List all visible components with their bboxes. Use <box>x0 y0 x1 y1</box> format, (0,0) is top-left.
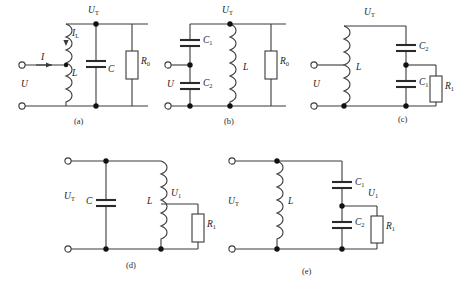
circuit-e-svg <box>222 148 402 288</box>
current-arrow-il <box>63 40 68 46</box>
terminal-c-top <box>311 62 317 68</box>
label-b-u: U <box>167 80 174 90</box>
terminal-b-top <box>165 62 171 68</box>
node-e-bottom <box>274 246 279 251</box>
label-b-ut: UT <box>222 6 233 16</box>
label-c-l: L <box>356 63 361 73</box>
node-e-mid <box>339 203 344 208</box>
node-d-top <box>103 158 108 163</box>
label-d-r1: R1 <box>207 220 216 230</box>
resistor-b-r0 <box>265 51 277 79</box>
resistor-d-r1 <box>192 214 204 242</box>
circuit-c-svg <box>306 6 461 130</box>
circuit-a-svg <box>8 6 158 130</box>
resistor-c-r1 <box>430 76 442 102</box>
label-d-c: C <box>86 197 92 207</box>
node-b-mid <box>187 62 192 67</box>
circuit-c: UT L C2 C1 R1 U (c) <box>306 6 461 130</box>
caption-e: (e) <box>302 266 311 276</box>
label-b-c2: C2 <box>203 79 213 89</box>
inductor-c <box>344 26 350 106</box>
caption-b: (b) <box>224 116 234 126</box>
inductor-d <box>161 161 167 249</box>
node-b-bottom <box>227 103 232 108</box>
label-e-r1: R1 <box>386 222 395 232</box>
node-a-top <box>93 21 98 26</box>
label-a-i: I <box>41 53 44 63</box>
terminal-d-top <box>65 158 71 164</box>
label-c-r1: R1 <box>445 82 454 92</box>
circuit-b: UT C1 C2 L R0 U (b) <box>158 6 308 130</box>
circuit-e: UT L C1 C2 U1 R1 (e) <box>222 148 402 288</box>
label-e-c2: C2 <box>355 218 365 228</box>
label-c-u: U <box>313 80 320 90</box>
label-a-r0: R0 <box>141 57 150 67</box>
circuit-a: UT I IL L C R0 U (a) <box>8 6 158 130</box>
current-arrow-i <box>46 62 52 67</box>
label-c-c2: C2 <box>419 42 429 52</box>
label-e-c1: C1 <box>355 178 365 188</box>
label-d-ut: UT <box>64 192 75 202</box>
terminal-b-bottom <box>165 103 171 109</box>
node-e-top <box>274 158 279 163</box>
circuit-figure: UT I IL L C R0 U (a) <box>0 0 466 296</box>
node-b-bottom-left <box>187 103 192 108</box>
circuit-b-svg <box>158 6 308 130</box>
terminal-e-bottom <box>229 246 235 252</box>
label-e-l: L <box>288 197 293 207</box>
resistor-e-r1 <box>371 216 383 243</box>
node-a-bottom <box>93 103 98 108</box>
label-c-c1: C1 <box>419 78 429 88</box>
terminal-a-top <box>19 62 25 68</box>
node-c-mid <box>403 62 408 67</box>
resistor-a-r0 <box>126 51 138 79</box>
label-d-u1: U1 <box>171 189 181 199</box>
node-c-bottom-left <box>341 103 346 108</box>
node-d-bottom-right <box>158 246 163 251</box>
label-a-ut: UT <box>88 6 99 16</box>
label-a-u: U <box>21 80 28 90</box>
label-b-l: L <box>243 63 248 73</box>
node-a-tap <box>64 63 68 67</box>
terminal-c-bottom <box>311 103 317 109</box>
node-b-top <box>227 21 232 26</box>
terminal-e-top <box>229 158 235 164</box>
caption-d: (d) <box>126 260 136 270</box>
label-a-il: IL <box>72 29 79 39</box>
caption-a: (a) <box>74 116 83 126</box>
node-c-bottom <box>403 103 408 108</box>
inductor-b <box>230 24 236 106</box>
circuit-d: UT C L U1 R1 (d) <box>58 148 228 288</box>
node-d-bottom <box>103 246 108 251</box>
label-a-c: C <box>108 65 114 75</box>
circuit-d-svg <box>58 148 228 288</box>
label-e-ut: UT <box>228 197 239 207</box>
label-e-u1: U1 <box>368 189 378 199</box>
terminal-a-bottom <box>19 103 25 109</box>
caption-c: (c) <box>398 114 407 124</box>
label-a-l: L <box>72 69 77 79</box>
label-d-l: L <box>147 197 152 207</box>
label-b-r0: R0 <box>280 57 289 67</box>
node-e-bottom-right <box>339 246 344 251</box>
terminal-d-bottom <box>65 246 71 252</box>
label-c-ut: UT <box>364 8 375 18</box>
inductor-e <box>277 161 283 249</box>
label-b-c1: C1 <box>203 36 213 46</box>
